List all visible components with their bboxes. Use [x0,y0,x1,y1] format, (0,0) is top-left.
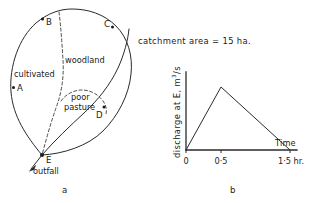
panel-a-caption: a [62,185,67,195]
region-label-cultivated: cultivated [14,69,55,79]
x-axis-title: Time [274,138,296,148]
point-label-a: A [17,83,23,93]
figure-canvas: cultivated woodland poor pasture A B C D… [0,0,314,203]
point-label-d: D [96,110,103,120]
catchment-area-note: catchment area = 15 ha. [138,36,251,46]
y-axis-title-group: discharge at E, m3/s [170,66,181,158]
point-label-e: E [46,155,51,165]
x-tick-label-1-5: 1·5 hr. [278,156,304,166]
figure-container: cultivated woodland poor pasture A B C D… [0,0,314,203]
y-axis-title: discharge at E, m3/s [170,66,181,158]
outfall-label: outfall [33,166,59,176]
region-label-woodland: woodland [65,55,105,65]
point-label-c: C [104,19,110,29]
panel-b-hydrograph: catchment area = 15 ha. 0 0·5 1·5 hr. Ti… [138,36,304,195]
x-tick-label-0: 0 [183,156,188,166]
point-label-b: B [46,17,52,27]
panel-a-catchment-map: cultivated woodland poor pasture A B C D… [11,9,132,195]
point-marker-c [111,26,114,29]
point-marker-d [103,106,106,109]
region-label-poor-pasture-line2: pasture [64,102,95,112]
point-marker-a [12,86,15,89]
region-label-poor-pasture-line1: poor [71,92,90,102]
y-axis-title-tail: /s [172,66,182,74]
divide-cultivated-woodland [42,12,63,155]
point-marker-b [41,18,44,21]
y-axis-title-main: discharge at E, m [172,78,182,158]
x-tick-label-0-5: 0·5 [214,156,227,166]
panel-b-caption: b [230,185,235,195]
catchment-outer-boundary [11,9,132,155]
